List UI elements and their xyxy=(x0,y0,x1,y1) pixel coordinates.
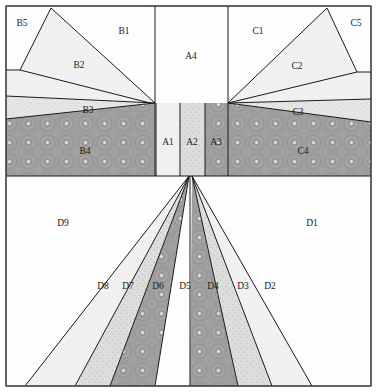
region-label-b4: B4 xyxy=(79,146,90,156)
region-label-c1: C1 xyxy=(252,26,263,36)
region-label-d9: D9 xyxy=(57,218,69,228)
region-label-b2: B2 xyxy=(73,60,84,70)
region-label-a4: A4 xyxy=(185,51,197,61)
region-label-b5: B5 xyxy=(16,18,27,28)
region-label-d4: D4 xyxy=(207,281,219,291)
region-label-d7: D7 xyxy=(122,281,134,291)
region-label-d5: D5 xyxy=(179,281,191,291)
region-label-a1: A1 xyxy=(162,137,174,147)
region-label-d2: D2 xyxy=(264,281,276,291)
region-label-b3: B3 xyxy=(82,105,93,115)
region-label-d6: D6 xyxy=(152,281,164,291)
diagram-canvas: B5B1B2B3B4A4A1A2A3C5C1C2C3C4D9D8D7D6D5D4… xyxy=(0,0,377,392)
region-label-c5: C5 xyxy=(350,18,361,28)
wedge-diagram-figure: B5B1B2B3B4A4A1A2A3C5C1C2C3C4D9D8D7D6D5D4… xyxy=(0,0,377,392)
region-label-c2: C2 xyxy=(291,61,302,71)
region-label-c4: C4 xyxy=(297,146,308,156)
region-label-c3: C3 xyxy=(292,107,303,117)
region-label-a2: A2 xyxy=(186,137,198,147)
region-label-b1: B1 xyxy=(118,26,129,36)
region-label-d8: D8 xyxy=(97,281,109,291)
region-label-a3: A3 xyxy=(210,137,222,147)
regions-layer xyxy=(6,6,371,386)
region-label-d3: D3 xyxy=(237,281,249,291)
region-label-d1: D1 xyxy=(306,218,318,228)
